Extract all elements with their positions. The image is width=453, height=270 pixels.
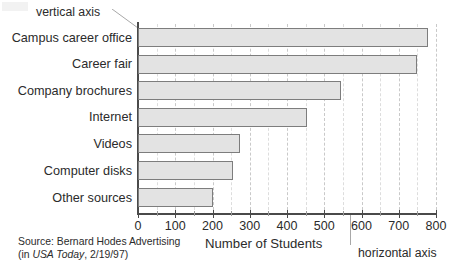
source-note: Source: Bernard Hodes Advertising (in US… [18,235,180,261]
x-tick [362,210,363,218]
x-tick-label: 500 [314,219,335,233]
bar-campus-career-office [138,28,428,47]
source-line-2: (in USA Today, 2/19/97) [18,248,180,261]
bar-videos [138,134,240,153]
x-tick-label: 0 [135,219,142,233]
category-label: Career fair [72,57,132,71]
x-tick [324,210,325,218]
x-tick [250,210,251,218]
x-tick-minor [306,211,307,216]
source-publication: USA Today [32,249,84,260]
x-tick [436,210,437,218]
category-label: Videos [93,137,132,151]
bar-company-brochures [138,81,341,100]
bar-computer-disks [138,161,233,180]
bar-internet [138,108,307,127]
category-label: Company brochures [18,84,132,98]
gridline-minor [380,24,381,210]
x-tick-label: 300 [239,219,260,233]
x-tick [175,210,176,218]
x-tick-label: 200 [202,219,223,233]
x-tick-label: 800 [426,219,447,233]
x-tick-minor [343,211,344,216]
bar-career-fair [138,55,417,74]
category-label: Other sources [52,191,132,205]
x-tick-minor [268,211,269,216]
x-tick [138,210,139,218]
gridline [436,24,437,210]
x-tick-label: 100 [165,219,186,233]
scan-artifact [2,2,28,11]
x-tick-label: 700 [388,219,409,233]
x-tick [213,210,214,218]
gridline-minor [417,24,418,210]
x-tick-minor [194,211,195,216]
horizontal-axis-annotation: horizontal axis [358,246,437,260]
x-tick-minor [417,211,418,216]
vertical-axis-annotation: vertical axis [36,5,100,19]
source-line-1: Source: Bernard Hodes Advertising [18,235,180,248]
x-tick [287,210,288,218]
category-label: Campus career office [12,31,132,45]
gridline-minor [343,24,344,210]
x-tick-label: 400 [277,219,298,233]
x-axis-title: Number of Students [205,236,322,251]
x-tick-label: 600 [351,219,372,233]
category-label: Internet [89,110,132,124]
gridline [399,24,400,210]
x-tick-minor [157,211,158,216]
bar-other-sources [138,188,213,207]
x-tick-minor [380,211,381,216]
source-prefix: (in [18,249,32,260]
bar-chart-figure: vertical axis Campus career office Caree… [0,0,453,270]
category-label: Computer disks [44,164,132,178]
gridline [324,24,325,210]
x-tick-minor [231,211,232,216]
x-tick [399,210,400,218]
gridline [362,24,363,210]
source-suffix: , 2/19/97) [84,249,128,260]
